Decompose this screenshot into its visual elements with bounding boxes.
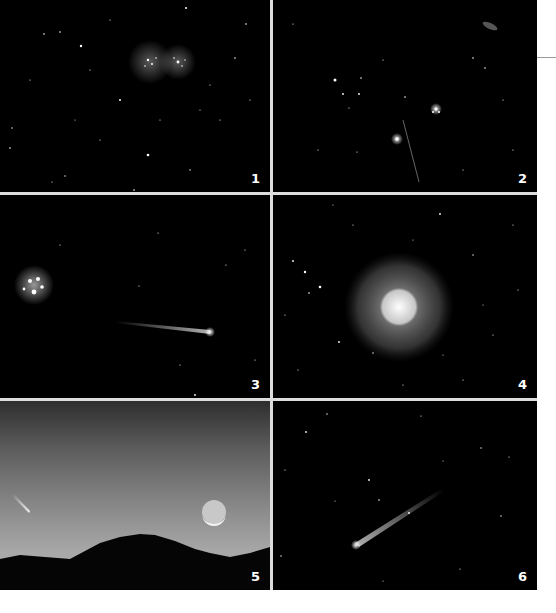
panel-number-1: 1 — [251, 171, 260, 186]
star-cluster-image — [0, 0, 270, 192]
row-divider-2 — [0, 398, 537, 401]
margin-rule — [537, 57, 556, 58]
star-field-image — [273, 0, 537, 192]
row-divider-1 — [0, 192, 537, 195]
comet-moon-landscape-image — [0, 401, 270, 590]
panel-number-6: 6 — [518, 569, 527, 584]
panel-number-3: 3 — [251, 377, 260, 392]
comet-tail-image — [273, 401, 537, 590]
photo-panel-3: 3 — [0, 195, 270, 398]
photo-panel-2: 2 — [273, 0, 537, 192]
photo-panel-5: 5 — [0, 401, 270, 590]
comet-pleiades-image — [0, 195, 270, 398]
photo-panel-1: 1 — [0, 0, 270, 192]
panel-number-2: 2 — [518, 171, 527, 186]
column-divider — [270, 0, 273, 590]
comet-coma-image — [273, 195, 537, 398]
photo-panel-4: 4 — [273, 195, 537, 398]
panel-number-5: 5 — [251, 569, 260, 584]
photo-panel-6: 6 — [273, 401, 537, 590]
panel-number-4: 4 — [518, 377, 527, 392]
